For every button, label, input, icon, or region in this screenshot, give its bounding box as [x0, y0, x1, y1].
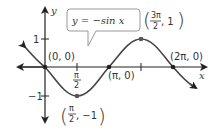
- x-tick-label-pi2-den: 2: [74, 81, 79, 90]
- label-max-rest: , 1: [161, 16, 174, 27]
- y-tick-label-1: 1: [33, 34, 39, 45]
- curve-arrow-right: [190, 84, 196, 88]
- point-two-pi: [171, 65, 176, 70]
- label-origin: (0, 0): [48, 51, 75, 62]
- point-min: [75, 94, 80, 99]
- y-tick-label-neg1: −1: [28, 91, 43, 102]
- label-max-num: 3π: [151, 11, 161, 20]
- label-min-rest: , −1: [76, 110, 97, 121]
- point-origin: [43, 65, 48, 70]
- label-min-num: π: [69, 104, 74, 113]
- point-max: [139, 37, 144, 42]
- equation-label: y = −sin x: [71, 15, 125, 26]
- label-pi: (π, 0): [108, 70, 135, 81]
- label-max-den: 2: [153, 22, 158, 31]
- label-two-pi: (2π, 0): [170, 51, 203, 62]
- svg-text:): ): [98, 104, 106, 128]
- svg-text:(: (: [143, 8, 151, 32]
- graph-canvas: y = −sin x y x 1 −1 π 2 (0, 0) (π, 0) (2…: [0, 0, 221, 130]
- y-axis-label: y: [50, 5, 57, 16]
- svg-text:): ): [177, 8, 185, 32]
- svg-text:(: (: [60, 104, 68, 128]
- x-axis-label: x: [199, 70, 205, 81]
- label-min-den: 2: [69, 115, 74, 124]
- curve-arrow-left: [22, 44, 25, 47]
- point-pi: [107, 65, 112, 70]
- x-tick-label-pi2-num: π: [74, 71, 79, 80]
